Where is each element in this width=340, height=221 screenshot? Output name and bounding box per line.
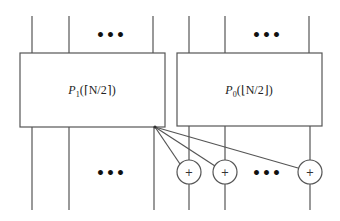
prefix-circuit-diagram: + + + xyxy=(0,0,340,221)
adder-plus-1: + xyxy=(185,167,193,178)
ellipsis-left-top: ••• xyxy=(96,27,126,43)
box-p0-label: P0(⌊N/2⌋) xyxy=(225,83,272,99)
ellipsis-right-bottom: ••• xyxy=(252,165,282,181)
box-p1-label: P1(⌈N/2⌉) xyxy=(68,83,115,99)
adder-plus-3: + xyxy=(306,167,314,178)
fan-line-3 xyxy=(155,127,298,168)
ellipsis-left-bottom: ••• xyxy=(96,165,126,181)
adder-plus-2: + xyxy=(221,167,229,178)
ellipsis-right-top: ••• xyxy=(252,27,282,43)
